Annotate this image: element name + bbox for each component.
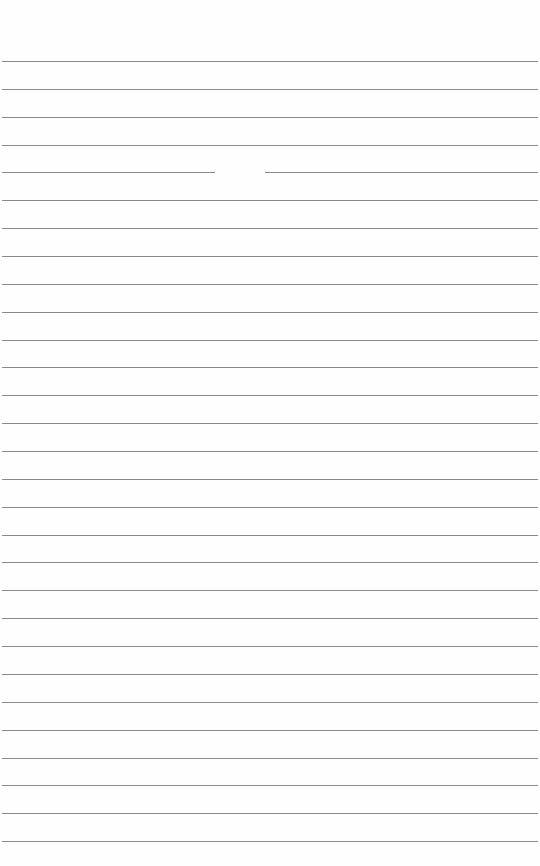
ruled-line (2, 89, 538, 90)
ruled-line (2, 451, 538, 452)
ruled-line (2, 423, 538, 424)
ruled-line (2, 172, 538, 173)
ruled-line (2, 618, 538, 619)
ruled-line (2, 646, 538, 647)
ruled-line (2, 284, 538, 285)
lined-paper-sheet (0, 0, 540, 866)
ruled-line (2, 340, 538, 341)
ruled-line (2, 813, 538, 814)
ruled-line (2, 507, 538, 508)
ruled-line (2, 841, 538, 842)
ruled-line (2, 256, 538, 257)
ruled-line (2, 562, 538, 563)
ruled-line (2, 674, 538, 675)
ruled-line (2, 228, 538, 229)
ruled-line (2, 702, 538, 703)
ruled-line (2, 535, 538, 536)
ruled-line (2, 758, 538, 759)
ruled-line (2, 145, 538, 146)
ruled-line (2, 117, 538, 118)
line-fade-gap (215, 171, 265, 174)
ruled-line (2, 395, 538, 396)
ruled-line (2, 367, 538, 368)
ruled-line (2, 61, 538, 62)
ruled-line (2, 200, 538, 201)
ruled-line (2, 785, 538, 786)
ruled-line (2, 590, 538, 591)
ruled-line (2, 479, 538, 480)
ruled-line (2, 730, 538, 731)
ruled-line (2, 312, 538, 313)
